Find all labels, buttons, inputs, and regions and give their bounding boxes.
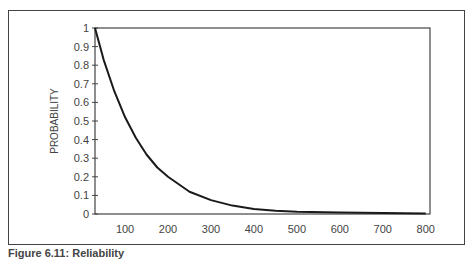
x-tick-label: 100: [116, 223, 134, 235]
y-tick-label: 0.3: [74, 152, 89, 164]
y-tick-label: 0.5: [74, 115, 89, 127]
plot-area: [95, 28, 430, 214]
y-tick-label: 0.1: [74, 189, 89, 201]
y-tick-label: 0.9: [74, 41, 89, 53]
y-tick-label: 0: [83, 208, 89, 220]
y-tick-label: 0.4: [74, 134, 89, 146]
x-tick-label: 500: [288, 223, 306, 235]
y-axis-ticks: 00.10.20.30.40.50.60.70.80.91: [74, 22, 98, 220]
x-tick-label: 800: [417, 223, 435, 235]
x-tick-label: 200: [159, 223, 177, 235]
y-tick-label: 0.6: [74, 96, 89, 108]
y-tick-label: 0.7: [74, 78, 89, 90]
figure-caption: Figure 6.11: Reliability: [8, 247, 124, 259]
reliability-curve: [95, 28, 426, 213]
x-tick-label: 400: [245, 223, 263, 235]
x-tick-label: 300: [202, 223, 220, 235]
x-axis-ticks: 100200300400500600700800: [116, 223, 435, 235]
x-tick-label: 600: [331, 223, 349, 235]
y-tick-label: 1: [83, 22, 89, 34]
y-axis-label: PROBABILITY: [49, 88, 60, 154]
x-tick-label: 700: [374, 223, 392, 235]
y-tick-label: 0.2: [74, 171, 89, 183]
y-tick-label: 0.8: [74, 59, 89, 71]
